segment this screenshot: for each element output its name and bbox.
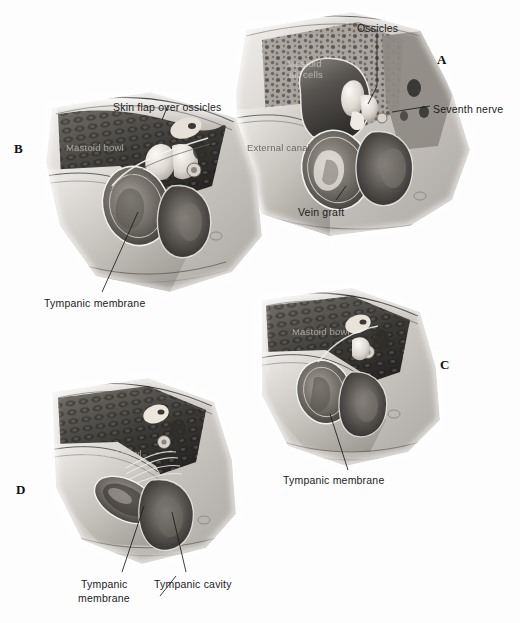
label-c-tympanic-membrane: Tympanic membrane	[283, 474, 384, 487]
label-skin-flap-over-ossicles: Skin flap over ossicles	[113, 101, 221, 114]
label-b-mastoid-bowl: Mastoid bowl	[66, 141, 124, 154]
panel-letter-c: C	[440, 357, 449, 373]
figure-plate: A Ossicles Seventh nerve External canal …	[0, 0, 520, 623]
label-c-mastoid-bowl: Mastoid bowl	[292, 325, 350, 338]
label-d-mastoid-bowl: Mastoid bowl	[84, 447, 142, 460]
label-seventh-nerve: Seventh nerve	[433, 103, 503, 116]
label-external-canal: External canal	[247, 141, 310, 154]
label-mastoid-air-cells-line2: air cells	[289, 68, 323, 81]
label-d-tympanic-membrane-line2: membrane	[78, 592, 130, 605]
panel-letter-b: B	[14, 141, 23, 157]
label-b-tympanic-membrane: Tympanic membrane	[44, 297, 145, 310]
label-vein-graft: Vein graft	[298, 206, 344, 219]
label-ossicles: Ossicles	[357, 22, 398, 35]
illustration-canvas	[0, 0, 520, 623]
label-d-tympanic-cavity: Tympanic cavity	[154, 578, 232, 591]
panel-letter-a: A	[437, 52, 446, 68]
label-d-tympanic-membrane-line1: Tympanic	[81, 578, 128, 591]
panel-letter-d: D	[16, 482, 25, 498]
